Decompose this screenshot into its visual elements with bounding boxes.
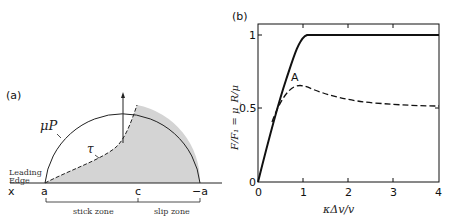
x-tick-0: 0	[255, 186, 262, 199]
panel-b-label: (b)	[232, 10, 248, 23]
slip-zone-label: slip zone	[154, 207, 190, 216]
x-axis-title: κΔv/v	[322, 203, 355, 216]
curve-A-label: A	[291, 71, 299, 84]
figure-canvas: (a) μP τ Leading Edge x a c −a stick zon…	[0, 0, 449, 223]
x-axis-label: x	[8, 185, 15, 198]
pos-a-label: a	[41, 185, 48, 198]
y-tick-1: 1	[249, 29, 256, 42]
x-tick-1: 1	[300, 186, 307, 199]
x-tick-2: 2	[345, 186, 352, 199]
leading-edge-label-2: Edge	[9, 176, 30, 185]
plot-frame	[258, 24, 439, 182]
axis-ticks	[258, 24, 439, 182]
panel-a: (a) μP τ Leading Edge x a c −a stick zon…	[6, 89, 222, 216]
arrow-up-icon	[121, 92, 125, 98]
x-tick-3: 3	[390, 186, 397, 199]
solid-curve	[258, 35, 439, 182]
tau-pointer	[95, 155, 99, 158]
x-tick-4: 4	[435, 186, 442, 199]
mu-p-label: μP	[40, 118, 57, 133]
y-tick-0-5: 0.5	[239, 102, 257, 115]
dashed-curve-A	[272, 86, 439, 122]
tau-label: τ	[87, 142, 94, 156]
panel-a-label: (a)	[6, 89, 21, 102]
pos-neg-a-label: −a	[192, 185, 208, 198]
panel-b: (b) 0 1 2 3 4 0 0.5 1 κΔv/v F/F₁ = μ_R/μ…	[229, 10, 442, 216]
y-tick-0: 0	[249, 176, 256, 189]
stick-zone-label: stick zone	[73, 207, 114, 216]
y-axis-title: F/F₁ = μ_R/μ	[229, 85, 241, 151]
mu-p-pointer	[57, 134, 61, 138]
pos-c-label: c	[135, 185, 141, 198]
